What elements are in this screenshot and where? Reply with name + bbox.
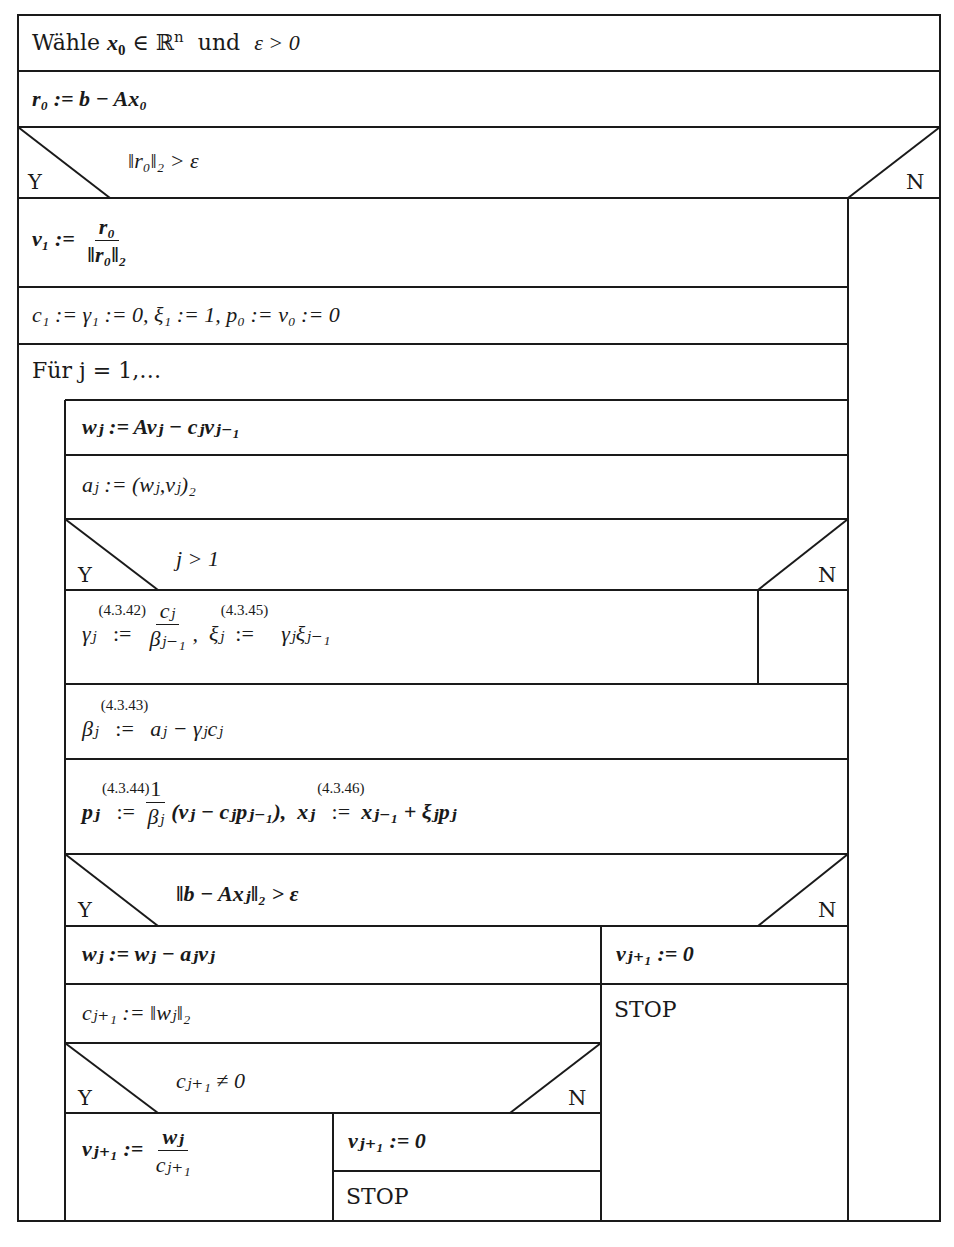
v1-denominator: ‖r₀‖₂ bbox=[83, 241, 130, 266]
v1-fraction: r₀ ‖r₀‖₂ bbox=[83, 216, 130, 266]
x-eq-ref: (4.3.46) bbox=[317, 781, 365, 796]
init-prefix: Wähle bbox=[32, 30, 100, 55]
cond-c: cⱼ₊₁ ≠ 0 bbox=[176, 1070, 245, 1092]
block-a-coeff: aⱼ := (wⱼ,vⱼ)₂ bbox=[82, 474, 196, 496]
beta-eq-ref: (4.3.43) bbox=[101, 698, 149, 713]
block-residual: r₀ := b − Ax₀ bbox=[32, 88, 147, 110]
p-denominator: βⱼ bbox=[143, 803, 168, 828]
cond-resid: ‖b − Axⱼ‖₂ > ε bbox=[176, 883, 299, 905]
gamma-fraction: cⱼ βⱼ₋₁ bbox=[146, 600, 190, 650]
beta-lhs: βⱼ bbox=[82, 716, 99, 741]
gamma-lhs: γⱼ bbox=[82, 621, 96, 646]
init-epsilon: ε > 0 bbox=[254, 30, 300, 55]
gamma-numerator: cⱼ bbox=[156, 600, 180, 625]
block-beta: βⱼ (4.3.43):= aⱼ − γⱼcⱼ bbox=[82, 718, 223, 740]
block-p-x: pⱼ (4.3.44):= 1 βⱼ (vⱼ − cⱼpⱼ₋₁), xⱼ (4.… bbox=[82, 800, 457, 828]
gamma-assign: := bbox=[113, 621, 132, 646]
j-yes-label: Y bbox=[78, 565, 92, 586]
c-yes-label: Y bbox=[78, 1088, 92, 1109]
p-assign: := bbox=[116, 799, 135, 824]
block-w-ortho: wⱼ := wⱼ − aⱼvⱼ bbox=[82, 943, 215, 965]
p-eq-ref: (4.3.44) bbox=[102, 781, 150, 796]
resid-no-label: N bbox=[818, 900, 836, 921]
block-c-next: cⱼ₊₁ := ‖wⱼ‖₂ bbox=[82, 1002, 191, 1024]
x-lhs: xⱼ bbox=[297, 799, 315, 824]
outer-no-label: N bbox=[906, 172, 924, 193]
x-rhs: xⱼ₋₁ + ξⱼpⱼ bbox=[361, 799, 456, 824]
block-init-choose: Wähle x0 ∈ ℝn und ε > 0 bbox=[32, 32, 300, 54]
block-gamma-xi: γⱼ (4.3.42):= cⱼ βⱼ₋₁ , ξⱼ (4.3.45):= γⱼ… bbox=[82, 622, 330, 650]
block-init-coeffs: c₁ := γ₁ := 0, ξ₁ := 1, p₀ := v₀ := 0 bbox=[32, 304, 340, 326]
block-stop-outer: STOP bbox=[614, 999, 677, 1021]
block-v1: v₁ := r₀ ‖r₀‖₂ bbox=[32, 216, 133, 266]
resid-yes-label: Y bbox=[78, 900, 92, 921]
init-and: und bbox=[198, 30, 240, 55]
cond-outer: ‖r₀‖₂ > ε bbox=[128, 150, 199, 172]
gamma-denominator: βⱼ₋₁ bbox=[146, 625, 190, 650]
x-assign: := bbox=[332, 799, 351, 824]
block-loop-header: Für j = 1,… bbox=[32, 360, 161, 382]
xi-rhs: γⱼξⱼ₋₁ bbox=[281, 621, 330, 646]
p-lhs: pⱼ bbox=[82, 799, 100, 824]
j-no-label: N bbox=[818, 565, 836, 586]
gamma-eq-ref: (4.3.42) bbox=[99, 603, 147, 618]
c-no-label: N bbox=[568, 1088, 586, 1109]
v1-lhs: v₁ := bbox=[32, 226, 75, 251]
beta-assign: := bbox=[115, 716, 134, 741]
v-next-fraction: wⱼ cⱼ₊₁ bbox=[152, 1126, 195, 1176]
v-next-numerator: wⱼ bbox=[158, 1126, 188, 1151]
block-w-update: wⱼ := Avⱼ − cⱼvⱼ₋₁ bbox=[82, 416, 240, 438]
xi-eq-ref: (4.3.45) bbox=[221, 603, 269, 618]
set-exponent: n bbox=[174, 28, 184, 46]
v1-numerator: r₀ bbox=[95, 216, 119, 241]
block-stop-inner: STOP bbox=[346, 1186, 409, 1208]
block-v-zero-inner: vⱼ₊₁ := 0 bbox=[348, 1130, 426, 1152]
v-next-lhs: vⱼ₊₁ := bbox=[82, 1136, 143, 1161]
set-symbol: ∈ ℝ bbox=[126, 30, 175, 55]
nassi-shneiderman-diagram: Wähle x0 ∈ ℝn und ε > 0 r₀ := b − Ax₀ Y … bbox=[0, 0, 954, 1247]
outer-yes-label: Y bbox=[28, 172, 42, 193]
cond-j: j > 1 bbox=[176, 548, 219, 570]
beta-rhs: aⱼ − γⱼcⱼ bbox=[150, 716, 223, 741]
xi-assign: := bbox=[235, 621, 254, 646]
block-v-zero-outer: vⱼ₊₁ := 0 bbox=[616, 943, 694, 965]
init-var-x: x0 bbox=[107, 30, 125, 55]
v-next-denominator: cⱼ₊₁ bbox=[152, 1151, 195, 1176]
p-rhs: (vⱼ − cⱼpⱼ₋₁), bbox=[171, 799, 286, 824]
block-v-next: vⱼ₊₁ := wⱼ cⱼ₊₁ bbox=[82, 1126, 198, 1176]
xi-lhs: ξⱼ bbox=[209, 621, 224, 646]
